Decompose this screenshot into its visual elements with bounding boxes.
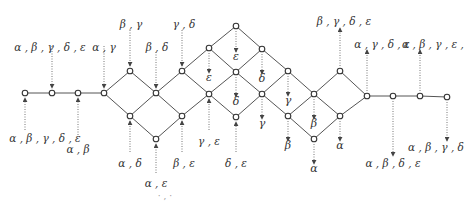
- lattice-node: [311, 136, 317, 142]
- set-labels: α , β , γ , δ , εα , γβ , γβ , δγ , δεεδ…: [9, 15, 464, 189]
- lattice-edge: [130, 116, 156, 139]
- lattice-edge: [288, 94, 314, 116]
- lattice-edge: [130, 71, 156, 93]
- lattice-node: [285, 113, 291, 119]
- set-label: α: [310, 162, 318, 175]
- lattice-edge: [156, 71, 182, 93]
- set-label: δ , ε: [225, 157, 247, 169]
- set-label: α , β , γ , ε ,: [402, 38, 464, 50]
- set-label: β , δ: [145, 41, 168, 53]
- lattice-edge: [104, 93, 130, 116]
- lattice-edge: [182, 71, 209, 94]
- lattice-edge: [130, 93, 156, 116]
- lattice-node: [179, 68, 185, 74]
- set-label: γ: [285, 94, 292, 107]
- set-label: ε: [206, 71, 212, 84]
- lattice-node: [417, 93, 423, 99]
- lattice-edge: [182, 48, 209, 71]
- set-label: α , γ: [92, 41, 116, 53]
- lattice-node: [179, 113, 185, 119]
- lattice-edge: [209, 26, 236, 48]
- lattice-node: [101, 90, 107, 96]
- lattice-node: [22, 90, 28, 96]
- lattice-node: [127, 113, 133, 119]
- set-label: α , β , δ , ε: [365, 157, 421, 169]
- set-label: ε: [233, 50, 239, 63]
- set-label: α , β , γ , δ: [408, 141, 464, 153]
- lattice-node: [233, 114, 239, 120]
- lattice-edge: [314, 116, 340, 139]
- lattice-node: [153, 136, 159, 142]
- set-label: β , γ , δ , ε: [316, 15, 372, 27]
- lattice-node: [444, 94, 450, 100]
- set-label: α , β: [66, 143, 89, 155]
- lattice-node: [206, 45, 212, 51]
- lattice-node: [259, 91, 265, 97]
- lattice-node: [259, 46, 265, 52]
- set-label: δ: [233, 95, 240, 108]
- set-label: α , δ: [118, 157, 141, 169]
- set-label: α: [336, 139, 344, 152]
- lattice-edge: [104, 71, 130, 93]
- set-label: β , ε: [172, 157, 195, 169]
- page-artifact: · , ·: [158, 191, 172, 201]
- set-label: γ , δ: [173, 18, 196, 30]
- set-label: α , β , γ , δ , ε: [14, 41, 86, 53]
- lattice-node: [364, 93, 370, 99]
- lattice-node: [285, 68, 291, 74]
- lattice-diagram: α , β , γ , δ , εα , γβ , γβ , δγ , δεεδ…: [0, 0, 472, 207]
- lattice-edge: [236, 94, 262, 117]
- lattice-edge: [340, 96, 367, 116]
- lattice-node: [206, 91, 212, 97]
- lattice-edge: [209, 48, 236, 72]
- lattice-edge: [262, 49, 288, 71]
- lattice-edge: [156, 93, 182, 116]
- lattice-node: [75, 90, 81, 96]
- lattice-edge: [420, 96, 447, 97]
- lattice-edge: [314, 71, 340, 94]
- set-label: γ , ε: [198, 135, 220, 147]
- set-label: α , ε: [145, 177, 168, 189]
- lattice-edge: [288, 71, 314, 94]
- lattice-node: [390, 93, 396, 99]
- lattice-node: [311, 91, 317, 97]
- lattice-edge: [182, 94, 209, 116]
- lattice-edge: [236, 49, 262, 72]
- lattice-node: [337, 68, 343, 74]
- lattice-edge: [340, 71, 367, 96]
- lattice-edge: [236, 26, 262, 49]
- lattice-node: [233, 69, 239, 75]
- lattice-node: [127, 68, 133, 74]
- set-label: γ: [259, 117, 266, 130]
- set-label: δ: [259, 72, 266, 85]
- lattice-edge: [209, 72, 236, 94]
- lattice-node: [337, 113, 343, 119]
- set-label: β , γ: [119, 18, 143, 30]
- lattice-edge: [156, 116, 182, 139]
- lattice-node: [153, 90, 159, 96]
- lattice-edge: [314, 94, 340, 116]
- lattice-node: [233, 23, 239, 29]
- lattice-edge: [262, 71, 288, 94]
- lattice-node: [49, 90, 55, 96]
- set-label: β: [284, 139, 291, 152]
- set-label: β: [310, 117, 317, 130]
